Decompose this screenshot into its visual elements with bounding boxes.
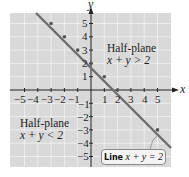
lower-half-plane-title: Half-plane [20,117,69,129]
x-tick-label: −5 [14,94,26,105]
x-tick-label: 5 [155,94,161,105]
y-tick-label: 5 [82,18,88,29]
y-tick-label: −3 [77,125,89,136]
y-axis-label: y [88,0,93,10]
y-tick-label: −4 [77,138,89,149]
lower-half-plane-label: Half-plane x + y < 2 [20,117,69,141]
x-axis-arrow-icon [172,88,179,93]
y-tick-label: −5 [77,151,89,162]
y-tick-label: 3 [82,45,88,56]
y-tick-label: 4 [82,31,88,42]
upper-half-plane-inequality: x + y > 2 [107,54,156,66]
x-tick-label: −4 [27,94,39,105]
upper-half-plane-title: Half-plane [107,42,156,54]
y-tick-label: 1 [82,71,88,82]
x-tick-label: 1 [102,94,108,105]
line-label-prefix: Line [104,153,123,162]
y-tick-label: −2 [77,112,89,123]
lower-half-plane-inequality: x + y < 2 [20,129,69,141]
y-tick-label: 2 [82,58,88,69]
x-tick-label: 2 [115,94,121,105]
x-tick-label: −2 [54,94,66,105]
upper-half-plane-label: Half-plane x + y > 2 [107,42,156,66]
x-tick-label: 4 [142,94,148,105]
x-axis-label: x [180,84,185,95]
line-label-equation: x + y = 2 [126,151,163,162]
y-tick-label: −1 [78,99,90,110]
x-tick-label: 3 [128,94,134,105]
line-label-box: Line x + y = 2 [101,149,166,165]
x-tick-label: −3 [41,94,53,105]
